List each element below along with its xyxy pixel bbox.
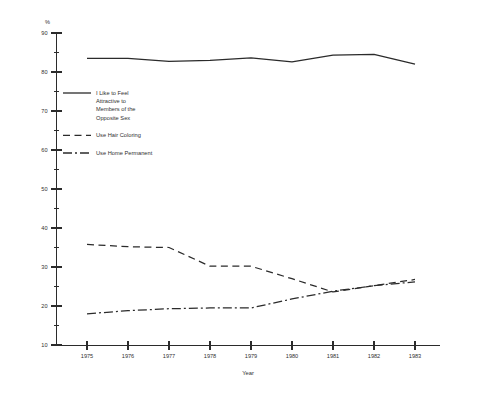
y-tick-label: 40 <box>41 225 47 231</box>
series-line-1 <box>87 244 415 292</box>
legend-label-2: Use Home Permanent <box>96 150 153 156</box>
chart-canvas: 102030405060708090 197519761977197819791… <box>0 0 477 395</box>
y-tick-label: 70 <box>41 108 47 114</box>
x-tick-label: 1976 <box>122 353 134 359</box>
y-tick-label: 50 <box>41 186 47 192</box>
x-tick-label: 1979 <box>245 353 257 359</box>
y-tick-label: 60 <box>41 147 47 153</box>
series-line-0 <box>87 54 415 64</box>
y-tick-label: 30 <box>41 264 47 270</box>
x-tick-label: 1980 <box>286 353 298 359</box>
x-tick-label: 1983 <box>409 353 421 359</box>
x-axis-tick-labels: 197519761977197819791980198119821983 <box>81 353 421 359</box>
y-tick-label: 20 <box>41 303 47 309</box>
legend-label-0: Members of the <box>96 106 136 112</box>
x-tick-label: 1975 <box>81 353 93 359</box>
x-tick-label: 1977 <box>163 353 175 359</box>
legend-label-0: Opposite Sex <box>96 115 130 121</box>
y-tick-label: 90 <box>41 30 47 36</box>
y-axis-unit-label: % <box>45 19 50 25</box>
y-axis-tick-labels: 102030405060708090 <box>41 30 47 348</box>
legend-label-0: I Like to Feel <box>96 90 129 96</box>
legend-label-0: Attractive to <box>96 98 126 104</box>
legend-label-1: Use Hair Coloring <box>96 132 141 138</box>
data-series-group <box>87 54 415 313</box>
y-tick-label: 80 <box>41 69 47 75</box>
x-tick-label: 1978 <box>204 353 216 359</box>
y-tick-label: 10 <box>41 342 47 348</box>
x-axis-title: Year <box>242 370 254 376</box>
line-chart-figure: 102030405060708090 197519761977197819791… <box>0 0 477 395</box>
chart-legend: I Like to FeelAttractive toMembers of th… <box>63 90 153 156</box>
x-tick-label: 1981 <box>327 353 339 359</box>
series-line-2 <box>87 282 415 314</box>
x-tick-label: 1982 <box>368 353 380 359</box>
axes <box>57 33 441 346</box>
